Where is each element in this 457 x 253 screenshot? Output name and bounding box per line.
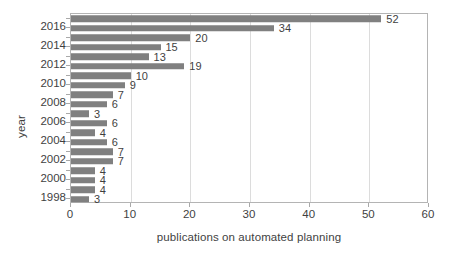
- bar[interactable]: [71, 187, 95, 194]
- x-axis-tick-mark: [70, 203, 71, 207]
- plot-area: 523420151319109763646774443: [70, 13, 428, 203]
- bar[interactable]: [71, 139, 107, 146]
- x-axis-tick-label: 30: [243, 209, 256, 221]
- x-axis-tick-mark: [309, 203, 310, 207]
- y-axis-tick-label: 2016: [22, 22, 66, 34]
- y-axis-tick-label: 2004: [22, 136, 66, 148]
- bar-row[interactable]: 9: [71, 81, 457, 91]
- bar[interactable]: [71, 130, 95, 137]
- bar-row[interactable]: 4: [71, 166, 457, 176]
- bar[interactable]: [71, 63, 184, 70]
- bar[interactable]: [71, 44, 161, 51]
- x-axis-tick-mark: [428, 203, 429, 207]
- bar-row[interactable]: 4: [71, 176, 457, 186]
- bar[interactable]: [71, 92, 113, 99]
- bar[interactable]: [71, 168, 95, 175]
- bar-row[interactable]: 6: [71, 138, 457, 148]
- bar-row[interactable]: 4: [71, 185, 457, 195]
- y-axis-tick-labels: 2016201420122010200820062004200220001998: [22, 13, 66, 203]
- bar-row[interactable]: 7: [71, 147, 457, 157]
- x-axis-tick-label: 10: [123, 209, 136, 221]
- x-axis-tick-mark: [368, 203, 369, 207]
- y-axis-tick-label: 2012: [22, 60, 66, 72]
- x-axis-title: publications on automated planning: [70, 231, 428, 243]
- y-axis-tick-label: 2006: [22, 117, 66, 129]
- bar[interactable]: [71, 177, 95, 184]
- bar-row[interactable]: 19: [71, 62, 457, 72]
- y-axis-tick-label: 2008: [22, 98, 66, 110]
- bar-row[interactable]: 7: [71, 157, 457, 167]
- bar-row[interactable]: 13: [71, 52, 457, 62]
- bar-row[interactable]: 34: [71, 24, 457, 34]
- bar-row[interactable]: 15: [71, 43, 457, 53]
- bar-row[interactable]: 6: [71, 119, 457, 129]
- bar[interactable]: [71, 158, 113, 165]
- bar-row[interactable]: 3: [71, 109, 457, 119]
- bar[interactable]: [71, 25, 274, 32]
- x-axis-tick-mark: [189, 203, 190, 207]
- bar[interactable]: [71, 101, 107, 108]
- x-axis-tick-mark: [249, 203, 250, 207]
- bar-row[interactable]: 7: [71, 90, 457, 100]
- x-axis-tick-label: 20: [183, 209, 196, 221]
- y-axis-tick-label: 2002: [22, 155, 66, 167]
- y-axis-tick-label: 2000: [22, 174, 66, 186]
- y-axis-tick-label: 2014: [22, 41, 66, 53]
- x-axis-tick-labels: 0102030405060: [70, 209, 428, 225]
- bar-row[interactable]: 20: [71, 33, 457, 43]
- y-axis-tick-label: 2010: [22, 79, 66, 91]
- bar[interactable]: [71, 111, 89, 118]
- x-axis-tick-label: 40: [302, 209, 315, 221]
- bar-row[interactable]: 4: [71, 128, 457, 138]
- bar[interactable]: [71, 73, 131, 80]
- bar-row[interactable]: 6: [71, 100, 457, 110]
- bar[interactable]: [71, 54, 149, 61]
- bar[interactable]: [71, 149, 113, 156]
- bar[interactable]: [71, 196, 89, 203]
- y-axis-tick-label: 1998: [22, 193, 66, 205]
- bar-chart-figure: year 20162014201220102008200620042002200…: [0, 0, 457, 253]
- x-axis-tick-label: 50: [362, 209, 375, 221]
- x-axis-tick-mark: [130, 203, 131, 207]
- x-axis-tick-label: 0: [67, 209, 73, 221]
- bar[interactable]: [71, 16, 381, 23]
- x-axis-tick-label: 60: [422, 209, 435, 221]
- bar-row[interactable]: 52: [71, 14, 457, 24]
- bar[interactable]: [71, 82, 125, 89]
